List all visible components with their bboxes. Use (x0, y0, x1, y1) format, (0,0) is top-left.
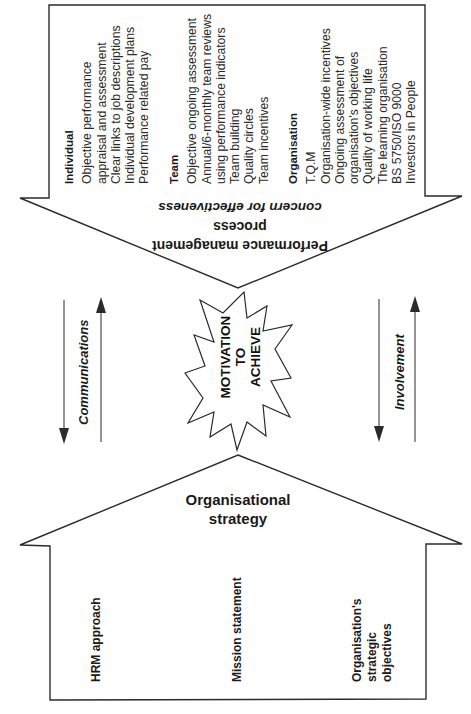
communications-label: Communications (76, 320, 91, 425)
motivation-line3: ACHIEVE (248, 302, 263, 412)
organisation-item: The learning organisation (376, 4, 390, 184)
organisation-item: organisation's objectives (347, 4, 361, 184)
strategy-title-line2: strategy (148, 509, 328, 528)
team-item: Team incentives (257, 4, 271, 184)
organisation-column: Organisation T.Q.M Organisation-wide inc… (286, 4, 419, 184)
motivation-label: MOTIVATION TO ACHIEVE (218, 302, 263, 412)
individual-column: Individual Objective performance apprais… (62, 4, 152, 184)
team-item: Objective ongoing assessment (185, 4, 199, 184)
team-item: Annual/6-monthly team reviews (200, 4, 214, 184)
organisation-heading: Organisation (286, 4, 300, 184)
team-heading: Team (167, 4, 181, 184)
team-item: Team building (228, 4, 242, 184)
individual-item: Clear links to job descriptions (109, 4, 123, 184)
strategy-title: Organisational strategy (148, 490, 328, 528)
performance-title-line2: process (110, 217, 370, 236)
pillar-mission-statement: Mission statement (230, 577, 245, 682)
performance-title-block: Performance management process concern f… (110, 198, 370, 255)
pillar-hrm-approach: HRM approach (89, 597, 104, 682)
team-item: Quality circles (242, 4, 256, 184)
individual-heading: Individual (62, 4, 76, 184)
team-column: Team Objective ongoing assessment Annual… (167, 4, 271, 184)
organisation-item: Investors in People (404, 4, 418, 184)
involvement-label: Involvement (392, 334, 407, 410)
organisation-item: Organisation-wide incentives (319, 4, 333, 184)
individual-item: appraisal and assessment (95, 4, 109, 184)
team-item: using performance indicators (214, 4, 228, 184)
diagram-canvas: Individual Objective performance apprais… (0, 0, 471, 714)
organisation-item: Ongoing assessment of (333, 4, 347, 184)
organisation-item: BS 5750/ISO 9000 (390, 4, 404, 184)
organisation-item: Quality of working life (361, 4, 375, 184)
pillar-strategic-objectives: Organisation's strategic objectives (350, 598, 395, 682)
strategy-title-line1: Organisational (148, 490, 328, 509)
individual-item: Performance related pay (137, 4, 151, 184)
individual-item: Objective performance (80, 4, 94, 184)
motivation-line1: MOTIVATION (218, 302, 233, 412)
motivation-line2: TO (233, 302, 248, 412)
performance-title-line1: Performance management (110, 236, 370, 255)
individual-item: Individual development plans (123, 4, 137, 184)
performance-subtitle: concern for effectiveness (110, 198, 370, 217)
organisation-item: T.Q.M (304, 4, 318, 184)
